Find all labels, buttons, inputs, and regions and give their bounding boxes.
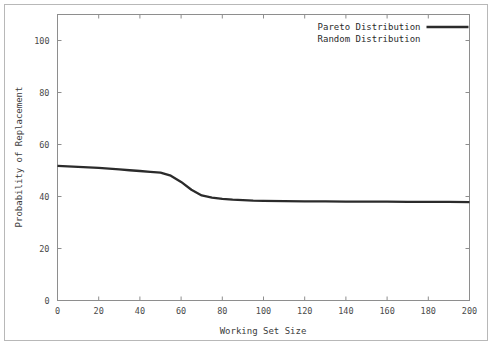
series-line-pareto-distribution (58, 166, 470, 202)
x-tick-label: 60 (176, 306, 186, 316)
x-axis-tick-labels: 020406080100120140160180200 (55, 306, 477, 316)
x-tick-label: 140 (338, 306, 353, 316)
y-tick-label: 100 (34, 36, 49, 46)
x-tick-label: 80 (217, 306, 227, 316)
x-tick-label: 180 (421, 306, 436, 316)
y-tick-label: 60 (39, 140, 49, 150)
y-tick-label: 20 (39, 244, 49, 254)
plot-frame (58, 15, 470, 301)
x-tick-label: 200 (462, 306, 477, 316)
x-axis-ticks (58, 15, 470, 301)
y-tick-label: 80 (39, 88, 49, 98)
data-series-group (58, 166, 470, 202)
chart-legend: Pareto DistributionRandom Distribution (318, 22, 469, 44)
x-tick-label: 20 (94, 306, 104, 316)
x-tick-label: 40 (135, 306, 145, 316)
legend-label-1: Random Distribution (318, 34, 421, 44)
plot-canvas: 020406080100120140160180200 020406080100… (0, 0, 493, 346)
chart-figure: 020406080100120140160180200 020406080100… (0, 0, 493, 346)
x-tick-label: 0 (55, 306, 60, 316)
x-axis-title: Working Set Size (220, 326, 307, 336)
x-tick-label: 160 (379, 306, 394, 316)
y-axis-tick-labels: 020406080100 (34, 36, 49, 306)
y-tick-label: 0 (44, 296, 49, 306)
x-tick-label: 120 (297, 306, 312, 316)
x-tick-label: 100 (256, 306, 271, 316)
y-axis-title: Probability of Replacement (14, 87, 24, 228)
legend-label-0: Pareto Distribution (318, 22, 421, 32)
y-tick-label: 40 (39, 192, 49, 202)
